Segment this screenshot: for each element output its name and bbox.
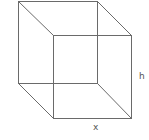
cube-edge-top-right (98, 2, 132, 36)
cube-edge-bottom-left (19, 84, 54, 119)
height-label: h (139, 72, 145, 81)
cube-edge-top-left (19, 2, 54, 36)
cube-diagram (0, 0, 149, 140)
cube-edge-bottom-right (98, 84, 132, 119)
cube-back-face (19, 2, 98, 84)
width-label: x (93, 123, 98, 132)
